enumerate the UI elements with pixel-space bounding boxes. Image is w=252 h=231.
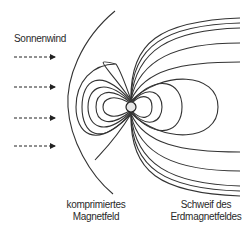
compressed-field-line2: Magnetfeld [66, 211, 126, 223]
tail-line2: Erdmagnetfeldes [166, 211, 246, 223]
tail-line1: Schweif des [166, 199, 246, 211]
compressed-field-label: komprimiertes Magnetfeld [66, 199, 126, 223]
bow-shock-line [68, 11, 115, 194]
field-lines [76, 18, 240, 196]
solar-wind-label: Sonnenwind [14, 33, 66, 45]
solar-wind-arrows [14, 57, 55, 146]
earth-icon [126, 102, 136, 112]
tail-label: Schweif des Erdmagnetfeldes [166, 199, 246, 223]
compressed-field-line1: komprimiertes [66, 199, 126, 211]
